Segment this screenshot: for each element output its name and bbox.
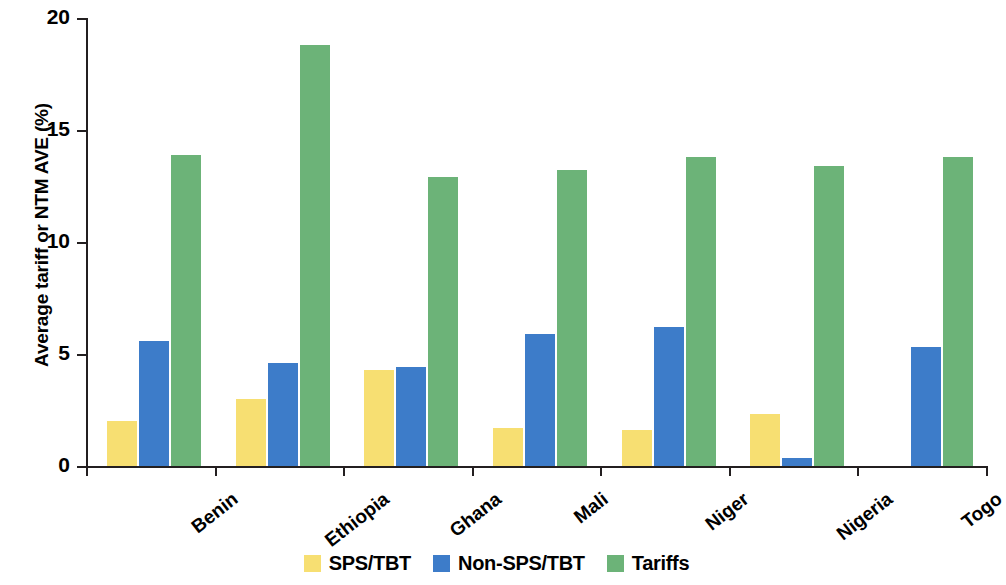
- x-tick: [215, 466, 217, 476]
- x-axis-label: Nigeria: [833, 488, 897, 545]
- bar: [364, 370, 394, 466]
- y-tick: 20: [77, 18, 86, 20]
- x-axis-label: Benin: [187, 488, 242, 538]
- legend-item: SPS/TBT: [304, 552, 411, 575]
- bar: [686, 157, 716, 466]
- bar: [557, 170, 587, 466]
- bar: [236, 399, 266, 466]
- bar-group: [236, 18, 330, 466]
- bar-group: [107, 18, 201, 466]
- y-tick-label: 15: [47, 117, 70, 141]
- bar: [493, 428, 523, 466]
- y-axis-line: [86, 18, 88, 467]
- y-tick-label: 10: [47, 229, 70, 253]
- x-tick: [86, 466, 88, 476]
- y-tick: 0: [77, 466, 86, 468]
- x-axis-label: Niger: [701, 488, 753, 535]
- bar: [750, 414, 780, 466]
- legend-swatch: [607, 555, 624, 572]
- x-tick: [986, 466, 988, 476]
- legend-item: Tariffs: [607, 552, 690, 575]
- x-axis-label: Ghana: [446, 488, 506, 542]
- x-axis-label: Ethiopia: [321, 488, 394, 551]
- bar: [943, 157, 973, 466]
- x-axis-label: Mali: [570, 488, 613, 528]
- y-tick-label: 5: [58, 341, 70, 365]
- legend-swatch: [433, 555, 450, 572]
- x-tick: [343, 466, 345, 476]
- y-tick: 15: [77, 130, 86, 132]
- bar: [139, 341, 169, 466]
- legend-swatch: [304, 555, 321, 572]
- bar: [525, 334, 555, 466]
- bar-group: [879, 18, 973, 466]
- bar-group: [493, 18, 587, 466]
- legend-label: SPS/TBT: [329, 552, 411, 575]
- bar: [911, 347, 941, 466]
- bar: [428, 177, 458, 466]
- x-tick: [600, 466, 602, 476]
- bar: [268, 363, 298, 466]
- legend-label: Tariffs: [632, 552, 690, 575]
- y-tick-label: 20: [47, 5, 70, 29]
- plot-area: 05101520 BeninEthiopiaGhanaMaliNigerNige…: [86, 18, 986, 466]
- bar: [300, 45, 330, 466]
- x-axis-label: Togo: [957, 488, 1006, 533]
- x-tick: [729, 466, 731, 476]
- legend-item: Non-SPS/TBT: [433, 552, 585, 575]
- bar: [782, 458, 812, 466]
- bar: [107, 421, 137, 466]
- y-tick: 10: [77, 242, 86, 244]
- legend-label: Non-SPS/TBT: [458, 552, 585, 575]
- bar: [654, 327, 684, 466]
- x-axis-line: [86, 466, 986, 468]
- y-tick: 5: [77, 354, 86, 356]
- bar: [622, 430, 652, 466]
- y-tick-label: 0: [58, 453, 70, 477]
- bar-group: [622, 18, 716, 466]
- bar: [814, 166, 844, 466]
- bar-group: [750, 18, 844, 466]
- bar: [171, 155, 201, 466]
- x-tick: [472, 466, 474, 476]
- x-tick: [857, 466, 859, 476]
- bar-group: [364, 18, 458, 466]
- chart-legend: SPS/TBTNon-SPS/TBTTariffs: [0, 552, 993, 575]
- bar: [396, 367, 426, 466]
